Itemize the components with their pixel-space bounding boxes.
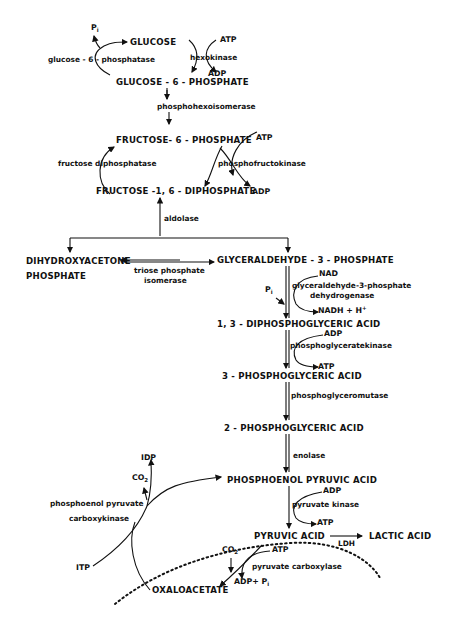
enzyme-fructose-diphosphatase: fructose diphosphatase [58, 160, 156, 167]
metabolite-glucose: GLUCOSE [130, 38, 176, 47]
enzyme-pepck-line1: phosphoenol pyruvate [50, 500, 143, 507]
nad-label: NAD [319, 270, 338, 278]
metabolite-fructose-1-6-diphosphate: FRUCTOSE -1, 6 - DIPHOSPHATE [96, 187, 255, 196]
pc-atp-label: ATP [272, 546, 288, 554]
enzyme-aldolase: aldolase [164, 215, 199, 222]
enzyme-gapdh-line2: dehydrogenase [310, 292, 374, 299]
pk-atp-label: ATP [317, 519, 333, 527]
pfk-atp-label: ATP [256, 134, 272, 142]
gapdh-pi-label: Pi [265, 286, 273, 296]
enzyme-phosphohexoisomerase: phosphohexoisomerase [157, 103, 256, 110]
enzyme-pyruvate-carboxylase: pyruvate carboxylase [252, 563, 342, 570]
enzyme-triose-phosphate-isomerase-line2: isomerase [144, 277, 187, 284]
metabolite-glyceraldehyde-3-phosphate: GLYCERALDEHYDE - 3 - PHOSPHATE [217, 256, 394, 265]
metabolite-3-phosphoglyceric-acid: 3 - PHOSPHOGLYCERIC ACID [222, 372, 362, 381]
metabolite-phosphoenolpyruvic-acid: PHOSPHOENOL PYRUVIC ACID [227, 476, 377, 485]
pc-adp-pi-label: ADP+ Pi [234, 578, 269, 588]
enzyme-phosphoglyceromutase: phosphoglyceromutase [291, 392, 388, 399]
pk-adp-label: ADP [323, 487, 341, 495]
pfk-adp-label: ADP [252, 188, 270, 196]
pi-label: Pi [91, 24, 99, 34]
metabolite-fructose-6-phosphate: FRUCTOSE- 6 - PHOSPHATE [116, 136, 252, 145]
metabolite-oxaloacetate: OXALOACETATE [152, 586, 229, 595]
co2-pc-label: CO2 [222, 546, 238, 556]
enzyme-gapdh-line1: glyceraldehyde-3-phosphate [292, 282, 411, 289]
enzyme-ldh: LDH [338, 540, 355, 547]
itp-label: ITP [76, 564, 90, 572]
glycolysis-pathway-diagram: Pi GLUCOSE ATP glucose - 6 - phosphatase… [0, 0, 457, 632]
enzyme-glucose-6-phosphatase: glucose - 6 - phosphatase [48, 56, 155, 63]
enzyme-phosphofructokinase: phosphofructokinase [218, 160, 306, 167]
metabolite-1-3-diphosphoglyceric-acid: 1, 3 - DIPHOSPHOGLYCERIC ACID [217, 320, 380, 329]
hexokinase-atp-label: ATP [220, 36, 236, 44]
idp-label: IDP [141, 454, 156, 462]
metabolite-2-phosphoglyceric-acid: 2 - PHOSPHOGLYCERIC ACID [224, 424, 364, 433]
enzyme-pepck-line2: carboxykinase [69, 515, 129, 522]
enzyme-enolase: enolase [293, 452, 325, 459]
pgk-adp-label: ADP [324, 330, 342, 338]
enzyme-hexokinase: hexokinase [190, 54, 237, 61]
co2-pepck-label: CO2 [132, 474, 148, 484]
metabolite-dihydroxyacetone-phosphate-line1: DIHYDROXYACETONE [26, 257, 131, 266]
enzyme-triose-phosphate-isomerase-line1: triose phosphate [134, 267, 205, 274]
pgk-atp-label: ATP [318, 363, 334, 371]
enzyme-phosphoglyceratekinase: phosphoglyceratekinase [290, 342, 392, 349]
metabolite-lactic-acid: LACTIC ACID [369, 532, 431, 541]
metabolite-dihydroxyacetone-phosphate-line2: PHOSPHATE [26, 272, 86, 281]
enzyme-pyruvate-kinase: pyruvate kinase [292, 501, 359, 508]
nadh-label: NADH + H+ [318, 306, 367, 315]
metabolite-pyruvic-acid: PYRUVIC ACID [254, 532, 325, 541]
metabolite-glucose-6-phosphate: GLUCOSE - 6 - PHOSPHATE [116, 78, 249, 87]
